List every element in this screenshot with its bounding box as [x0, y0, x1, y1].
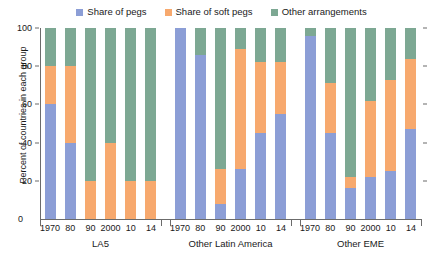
- y-tick-mark: [35, 28, 39, 29]
- bar-segment-soft_pegs: [405, 59, 416, 130]
- y-tick-mark-right: [423, 180, 427, 181]
- legend-swatch-icon: [271, 9, 278, 16]
- bar-segment-soft_pegs: [145, 181, 156, 219]
- stacked-bar: [305, 28, 316, 219]
- bar-segment-other: [275, 28, 286, 62]
- legend-swatch-icon: [165, 9, 172, 16]
- bar-segment-pegs: [345, 188, 356, 219]
- x-group: LA5: [40, 220, 161, 271]
- x-group-label: Other Latin America: [170, 238, 291, 249]
- bar-segment-other: [105, 28, 116, 143]
- y-tick-zero: 0: [18, 214, 23, 224]
- stacked-bar: [45, 28, 56, 219]
- y-tick-mark-right: [423, 104, 427, 105]
- stacked-bar: [105, 28, 116, 219]
- legend-label: Share of soft pegs: [176, 7, 253, 17]
- x-group-separator: [421, 220, 422, 226]
- stacked-bar: [365, 28, 376, 219]
- bar-segment-pegs: [305, 36, 316, 219]
- bar-segment-soft_pegs: [215, 169, 226, 203]
- stacked-bar: [215, 28, 226, 219]
- bar-segment-pegs: [365, 177, 376, 219]
- bar-segment-other: [325, 28, 336, 83]
- y-tick-mark-right: [423, 28, 427, 29]
- chart-legend: Share of pegsShare of soft pegsOther arr…: [0, 7, 443, 17]
- bar-segment-pegs: [65, 143, 76, 219]
- stacked-bar: [345, 28, 356, 219]
- bar-segment-other: [405, 28, 416, 59]
- bar-segment-pegs: [385, 171, 396, 219]
- bar-segment-other: [365, 28, 376, 101]
- x-group-separator: [161, 220, 162, 226]
- bar-segment-soft_pegs: [325, 83, 336, 133]
- x-group: Other Latin America: [170, 220, 291, 271]
- stacked-bar: [175, 28, 186, 219]
- legend-swatch-icon: [76, 9, 83, 16]
- x-group-label: Other EME: [300, 238, 421, 249]
- bar-segment-pegs: [45, 104, 56, 219]
- bar-segment-other: [345, 28, 356, 177]
- legend-label: Share of pegs: [87, 7, 146, 17]
- legend-item: Share of pegs: [76, 7, 146, 17]
- bar-segment-other: [305, 28, 316, 36]
- stacked-bar: [405, 28, 416, 219]
- bar-segment-soft_pegs: [65, 66, 76, 142]
- bar-segment-pegs: [255, 133, 266, 219]
- bar-segment-pegs: [195, 55, 206, 219]
- bar-series-container: [40, 28, 421, 219]
- stacked-bar: [385, 28, 396, 219]
- stacked-bar-chart: Share of pegsShare of soft pegsOther arr…: [0, 0, 443, 271]
- stacked-bar: [195, 28, 206, 219]
- bar-segment-other: [215, 28, 226, 169]
- legend-label: Other arrangements: [282, 7, 367, 17]
- x-group: Other EME: [300, 220, 421, 271]
- y-tick-mark: [35, 142, 39, 143]
- x-group-separator: [170, 220, 171, 226]
- x-group-separator: [40, 220, 41, 226]
- bar-segment-pegs: [275, 114, 286, 219]
- bar-segment-pegs: [215, 204, 226, 219]
- stacked-bar: [325, 28, 336, 219]
- bar-segment-soft_pegs: [275, 62, 286, 114]
- bar-segment-soft_pegs: [125, 181, 136, 219]
- y-tick-mark: [35, 66, 39, 67]
- y-tick-mark: [35, 104, 39, 105]
- bar-segment-soft_pegs: [85, 181, 96, 219]
- y-axis-title: Percent of countries in each group: [18, 30, 28, 200]
- x-axis-groups: 1970809020001014LA51970809020001014Other…: [40, 220, 422, 271]
- y-tick-mark: [35, 180, 39, 181]
- bar-segment-other: [195, 28, 206, 55]
- bar-segment-other: [45, 28, 56, 66]
- bar-segment-other: [125, 28, 136, 181]
- x-group-separator: [291, 220, 292, 226]
- bar-segment-pegs: [175, 28, 186, 219]
- legend-item: Other arrangements: [271, 7, 367, 17]
- plot-area: 20406080100: [40, 28, 421, 219]
- bar-segment-soft_pegs: [105, 143, 116, 219]
- bar-segment-other: [85, 28, 96, 181]
- bar-segment-pegs: [235, 169, 246, 219]
- bar-segment-other: [235, 28, 246, 49]
- stacked-bar: [145, 28, 156, 219]
- y-tick-mark-right: [423, 142, 427, 143]
- legend-item: Share of soft pegs: [165, 7, 253, 17]
- x-group-label: LA5: [40, 238, 161, 249]
- bar-segment-other: [145, 28, 156, 181]
- bar-segment-other: [385, 28, 396, 80]
- stacked-bar: [255, 28, 266, 219]
- bar-segment-pegs: [405, 129, 416, 219]
- bar-segment-soft_pegs: [365, 101, 376, 177]
- bar-segment-soft_pegs: [385, 80, 396, 172]
- bar-segment-soft_pegs: [235, 49, 246, 169]
- y-tick-mark-right: [423, 66, 427, 67]
- stacked-bar: [275, 28, 286, 219]
- stacked-bar: [65, 28, 76, 219]
- bar-segment-soft_pegs: [45, 66, 56, 104]
- x-group-separator: [300, 220, 301, 226]
- bar-segment-other: [255, 28, 266, 62]
- stacked-bar: [235, 28, 246, 219]
- stacked-bar: [85, 28, 96, 219]
- bar-segment-soft_pegs: [345, 177, 356, 188]
- bar-segment-other: [65, 28, 76, 66]
- bar-segment-pegs: [325, 133, 336, 219]
